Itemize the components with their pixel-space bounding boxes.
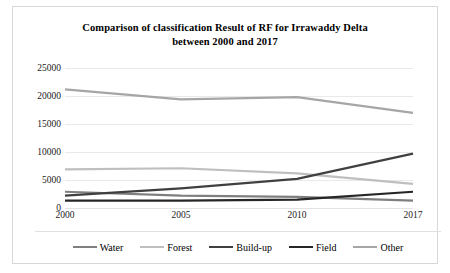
chart-title: Comparison of classification Result of R…: [13, 21, 437, 49]
legend-divider: [35, 231, 441, 232]
x-axis-tick-label: 2017: [404, 210, 423, 220]
legend-label-field: Field: [316, 242, 337, 253]
chart-title-line-1: Comparison of classification Result of R…: [82, 22, 368, 33]
series-line-build-up: [65, 154, 413, 196]
legend-label-build-up: Build-up: [236, 242, 272, 253]
legend-label-forest: Forest: [167, 242, 192, 253]
legend-item-other[interactable]: Other: [353, 242, 403, 253]
legend-label-water: Water: [100, 242, 124, 253]
legend-swatch-water: [73, 246, 97, 249]
x-axis-tick-label: 2010: [288, 210, 307, 220]
y-axis-tick-label: 15000: [13, 119, 61, 129]
y-axis-tick-label: 25000: [13, 63, 61, 73]
y-axis-tick-label: 0: [13, 203, 61, 213]
y-axis-tick-label: 20000: [13, 91, 61, 101]
plot-area: [65, 68, 413, 208]
legend-swatch-field: [289, 246, 313, 249]
y-axis-tick-labels: 0500010000150002000025000: [13, 68, 61, 208]
legend-swatch-build-up: [209, 246, 233, 249]
y-axis-tick-label: 10000: [13, 147, 61, 157]
chart-legend: WaterForestBuild-upFieldOther: [35, 238, 441, 256]
chart-title-line-2: between 2000 and 2017: [13, 35, 437, 49]
x-axis-tick-labels: 2000200520102017: [65, 210, 413, 226]
legend-item-water[interactable]: Water: [73, 242, 124, 253]
y-axis-tick-label: 5000: [13, 175, 61, 185]
legend-swatch-forest: [140, 246, 164, 249]
legend-swatch-other: [353, 246, 377, 249]
legend-item-build-up[interactable]: Build-up: [209, 242, 272, 253]
legend-item-forest[interactable]: Forest: [140, 242, 192, 253]
x-axis-tick-label: 2000: [56, 210, 75, 220]
x-axis-tick-label: 2005: [172, 210, 191, 220]
chart-container: Comparison of classification Result of R…: [12, 6, 438, 264]
gridline: [65, 208, 413, 209]
legend-label-other: Other: [380, 242, 403, 253]
legend-item-field[interactable]: Field: [289, 242, 337, 253]
series-line-other: [65, 89, 413, 113]
series-line-forest: [65, 168, 413, 184]
series-lines: [65, 68, 413, 208]
